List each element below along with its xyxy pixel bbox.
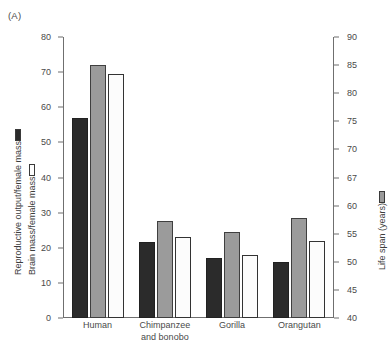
right-axis-tick-label: 75 (347, 116, 357, 126)
right-axis-tick-label: 45 (347, 285, 357, 295)
gray-square-icon (379, 191, 385, 203)
left-axis-tick-label: 80 (41, 32, 51, 42)
left-axis-title-reproductive-output: Reproductive output/female mass (12, 132, 24, 275)
right-axis-tick-label: 90 (347, 32, 357, 42)
bars-layer (64, 37, 333, 318)
right-axis-tick-mark (334, 121, 339, 122)
right-axis-tick-mark (334, 261, 339, 262)
right-axis-tick-mark (334, 318, 339, 319)
bar-reproductive-output (206, 258, 222, 318)
left-axis-tick-label: 40 (41, 173, 51, 183)
right-axis-title-life-span-text: Life span (years) (377, 203, 387, 270)
bar-brain-mass (242, 255, 258, 318)
right-axis-tick-label: 40 (347, 313, 357, 323)
right-axis-tick-mark (334, 177, 339, 178)
bar-brain-mass (108, 74, 124, 318)
left-axis-title-brain-mass-text: Brain mass/female mass (27, 176, 37, 275)
bar-life-span (224, 232, 240, 318)
bar-brain-mass (175, 237, 191, 318)
left-axis-tick-label: 10 (41, 278, 51, 288)
left-axis-tick-label: 50 (41, 137, 51, 147)
right-axis-tick-mark (334, 149, 339, 150)
bar-life-span (291, 218, 307, 318)
right-axis-tick-label: 55 (347, 229, 357, 239)
right-axis-tick-mark (334, 37, 339, 38)
left-axis-tick-label: 20 (41, 243, 51, 253)
right-axis-tick-label: 50 (347, 257, 357, 267)
bar-reproductive-output (72, 118, 88, 318)
left-axis-title-reproductive-output-text: Reproductive output/female mass (13, 141, 23, 275)
bar-brain-mass (309, 241, 325, 318)
dark-square-icon (15, 129, 21, 141)
right-axis-tick-label: 60 (347, 201, 357, 211)
right-axis-tick-label: 67 (347, 173, 357, 183)
right-axis-tick-label: 80 (347, 88, 357, 98)
category-labels: HumanChimpanzee and bonoboGorillaOrangut… (64, 320, 333, 352)
right-axis-tick-mark (334, 93, 339, 94)
bar-reproductive-output (273, 262, 289, 318)
right-axis-title-life-span: Life span (years) (376, 194, 388, 270)
bar-life-span (157, 221, 173, 318)
right-axis-tick-label: 85 (347, 60, 357, 70)
right-axis-tick-label: 70 (347, 144, 357, 154)
left-axis-title-brain-mass: Brain mass/female mass (26, 167, 38, 275)
right-axis-tick-mark (334, 65, 339, 66)
left-axis-tick-label: 30 (41, 208, 51, 218)
left-axis-tick-label: 70 (41, 67, 51, 77)
right-axis: 4045505560677075808590 (334, 0, 387, 318)
right-axis-tick-mark (334, 233, 339, 234)
left-axis-tick-label: 60 (41, 102, 51, 112)
bar-reproductive-output (139, 242, 155, 318)
right-axis-tick-mark (334, 205, 339, 206)
white-square-icon (29, 164, 35, 176)
right-axis-tick-mark (334, 289, 339, 290)
bar-life-span (90, 65, 106, 318)
x-axis-category-label: Orangutan (252, 320, 347, 332)
